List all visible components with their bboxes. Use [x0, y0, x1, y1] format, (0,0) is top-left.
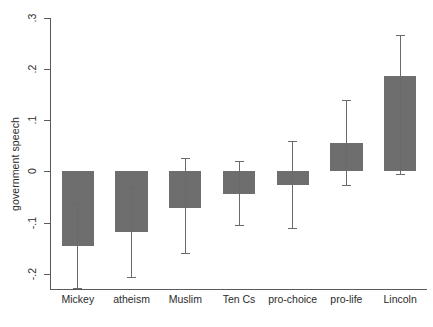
y-axis-tick: [44, 171, 50, 172]
y-axis-tick-label-text: .1: [26, 116, 38, 125]
error-bar-cap-lower: [127, 277, 136, 278]
error-bar-cap-upper: [127, 187, 136, 188]
y-axis-tick-label: .2: [22, 62, 42, 76]
plot-area: [51, 18, 427, 289]
error-bar-cap-lower: [288, 228, 297, 229]
y-axis-tick: [44, 223, 50, 224]
error-bar-line: [292, 141, 293, 228]
error-bar-line: [131, 187, 132, 278]
y-axis-tick-label-text: .2: [26, 65, 38, 74]
x-axis-tick-label: Ten Cs: [212, 293, 266, 305]
error-bar-line: [77, 203, 78, 288]
y-axis-tick: [44, 18, 50, 19]
error-bar-cap-upper: [342, 100, 351, 101]
x-axis-tick-label: Lincoln: [373, 293, 427, 305]
error-bar-cap-lower: [342, 185, 351, 186]
y-axis-title-text: government speech: [9, 117, 21, 211]
error-bar-line: [400, 35, 401, 174]
y-axis-tick: [44, 120, 50, 121]
y-axis-tick: [44, 274, 50, 275]
y-axis-tick-label: .1: [22, 113, 42, 127]
error-bar-cap-upper: [288, 141, 297, 142]
y-axis-tick-label: -.1: [22, 216, 42, 230]
error-bar-cap-upper: [181, 158, 190, 159]
y-axis-tick-label-text: -.2: [26, 268, 38, 280]
y-axis-tick-label-text: .3: [26, 14, 38, 23]
chart-figure: government speech .3.2.10-.1-.2 Mickeyat…: [0, 0, 433, 327]
x-axis-tick-label: Muslim: [158, 293, 212, 305]
error-bar-line: [346, 100, 347, 184]
x-axis-tick-label: pro-life: [320, 293, 374, 305]
error-bar-line: [239, 161, 240, 225]
x-axis-tick-label: atheism: [105, 293, 159, 305]
y-axis-tick-label: 0: [22, 164, 42, 178]
error-bar-cap-lower: [73, 288, 82, 289]
y-axis-tick-label-text: 0: [26, 168, 38, 174]
x-axis-tick-label: pro-choice: [266, 293, 320, 305]
y-axis-tick-label-text: -.1: [26, 216, 38, 228]
error-bar-cap-upper: [235, 161, 244, 162]
error-bar-cap-upper: [396, 35, 405, 36]
error-bar-line: [185, 158, 186, 253]
error-bar-cap-lower: [235, 225, 244, 226]
y-axis-tick: [44, 69, 50, 70]
y-axis-tick-label: -.2: [22, 267, 42, 281]
error-bar-cap-lower: [396, 174, 405, 175]
error-bar-cap-upper: [73, 203, 82, 204]
y-axis-tick-label: .3: [22, 11, 42, 25]
x-axis-line: [50, 289, 427, 290]
error-bar-cap-lower: [181, 253, 190, 254]
x-axis-tick-label: Mickey: [51, 293, 105, 305]
